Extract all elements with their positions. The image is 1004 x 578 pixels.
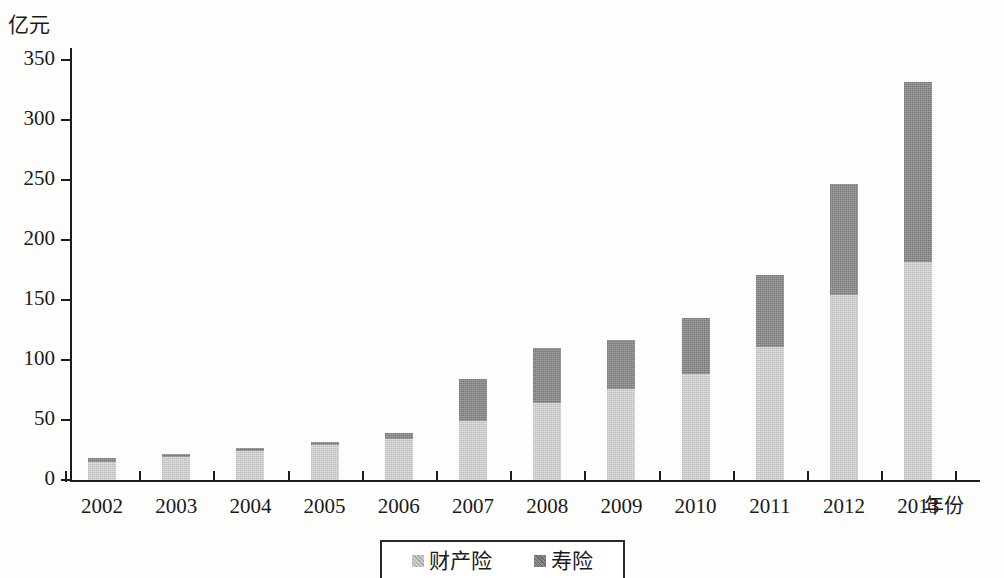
y-axis-tick-label: 350: [0, 47, 55, 69]
x-axis-title: 年份: [924, 494, 964, 518]
bar-segment-life: [682, 318, 710, 374]
x-axis-tick: [139, 471, 141, 482]
y-axis-tick-label: 0: [0, 467, 55, 489]
bar-segment-life: [533, 348, 561, 403]
stacked-bar-chart: 亿元 050100150200250300350 200220032004200…: [0, 0, 1004, 578]
x-axis-label-2005: 2005: [285, 494, 365, 518]
x-axis-tick: [659, 471, 661, 482]
x-axis-tick: [436, 471, 438, 482]
bar-segment-life: [607, 340, 635, 389]
x-axis-label-2010: 2010: [656, 494, 736, 518]
bar-segment-property: [830, 295, 858, 480]
y-axis-tick: 150: [61, 299, 71, 301]
x-axis-tick: [288, 471, 290, 482]
bar-segment-property: [236, 451, 264, 480]
bar-segment-property: [756, 347, 784, 480]
bar-group-2006: [385, 433, 413, 480]
bar-group-2007: [459, 379, 487, 480]
x-axis-tick: [362, 471, 364, 482]
bar-group-2010: [682, 318, 710, 480]
y-axis-tick-label: 200: [0, 227, 55, 249]
plot-area: 050100150200250300350: [70, 48, 980, 482]
y-axis-unit-label: 亿元: [8, 8, 50, 38]
x-axis-label-2009: 2009: [581, 494, 661, 518]
bar-segment-life: [830, 184, 858, 296]
chart-legend: 财产险寿险: [380, 540, 625, 578]
bar-group-2011: [756, 275, 784, 480]
x-axis-label-2003: 2003: [136, 494, 216, 518]
bar-segment-property: [904, 262, 932, 480]
x-axis-tick: [510, 471, 512, 482]
x-axis-label-2006: 2006: [359, 494, 439, 518]
x-axis-tick: [65, 471, 67, 482]
y-axis-tick: 200: [61, 239, 71, 241]
x-axis-tick: [213, 471, 215, 482]
y-axis-tick: 250: [61, 179, 71, 181]
x-axis-label-2002: 2002: [62, 494, 142, 518]
legend-label: 寿险: [551, 550, 593, 572]
y-axis-tick-label: 250: [0, 167, 55, 189]
y-axis-tick-label: 100: [0, 347, 55, 369]
bar-segment-property: [682, 374, 710, 480]
bar-group-2009: [607, 340, 635, 480]
bar-segment-property: [162, 457, 190, 480]
x-axis-tick: [733, 471, 735, 482]
bar-segment-property: [385, 439, 413, 480]
bar-group-2002: [88, 458, 116, 480]
y-axis-tick: 50: [61, 419, 71, 421]
x-axis-label-2012: 2012: [804, 494, 884, 518]
bar-segment-property: [459, 421, 487, 480]
x-axis-label-2011: 2011: [730, 494, 810, 518]
x-axis-label-2008: 2008: [507, 494, 587, 518]
bar-group-2005: [311, 442, 339, 480]
bar-segment-property: [607, 389, 635, 480]
x-axis-tick: [955, 471, 957, 482]
bar-segment-property: [88, 462, 116, 480]
x-axis-tick: [881, 471, 883, 482]
bar-group-2013: [904, 82, 932, 480]
x-axis-line: [70, 480, 980, 482]
y-axis-tick: 300: [61, 119, 71, 121]
bar-segment-property: [311, 445, 339, 480]
y-axis-tick: 100: [61, 359, 71, 361]
bar-group-2008: [533, 348, 561, 480]
x-axis-tick: [584, 471, 586, 482]
x-axis-label-2004: 2004: [210, 494, 290, 518]
legend-swatch-life-icon: [534, 555, 546, 567]
y-axis-tick-label: 150: [0, 287, 55, 309]
y-axis-line: [70, 48, 72, 482]
x-axis-label-2007: 2007: [433, 494, 513, 518]
bar-group-2012: [830, 184, 858, 480]
legend-swatch-property-icon: [412, 555, 424, 567]
y-axis-tick: 350: [61, 59, 71, 61]
x-axis-tick: [807, 471, 809, 482]
legend-label: 财产险: [429, 550, 492, 572]
legend-item-property[interactable]: 财产险: [412, 550, 492, 572]
bar-segment-life: [459, 379, 487, 421]
bar-group-2003: [162, 454, 190, 480]
bar-segment-life: [756, 275, 784, 347]
bar-segment-life: [904, 82, 932, 262]
y-axis-tick-label: 50: [0, 407, 55, 429]
y-axis-tick-label: 300: [0, 107, 55, 129]
bar-segment-property: [533, 403, 561, 480]
legend-item-life[interactable]: 寿险: [534, 550, 593, 572]
bar-group-2004: [236, 448, 264, 480]
